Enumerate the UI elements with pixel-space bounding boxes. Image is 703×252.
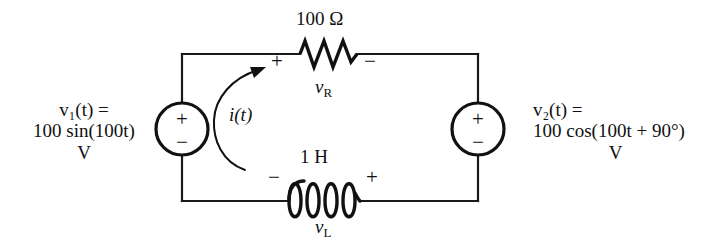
vl-subscript: L [323,225,331,240]
resistor-value-label: 100 Ω [296,8,343,29]
resistor-minus-sign: − [364,50,376,74]
resistor-voltage-label: vR [315,76,332,100]
source-right-minus-sign: − [472,131,484,155]
vr-subscript: R [323,85,332,100]
v1-line3: V [14,142,154,163]
source-left-minus-sign: − [176,131,188,155]
circuit-diagram: v₁(t) = 100 sin(100t) V v₂(t) = 100 cos(… [0,0,703,252]
v2-line1: v₂(t) = [533,99,698,120]
v2-line2: 100 cos(100t + 90°) [533,120,698,141]
inductor-voltage-label: vL [315,216,331,240]
voltage-source-left-label: v₁(t) = 100 sin(100t) V [14,99,154,163]
voltage-source-right-label: v₂(t) = 100 cos(100t + 90°) V [533,99,698,163]
inductor-symbol [289,181,360,217]
inductor-minus-sign: − [268,166,280,190]
v1-line2: 100 sin(100t) [14,120,154,141]
v1-line1: v₁(t) = [14,99,154,120]
source-right-plus-sign: + [472,108,484,132]
resistor-plus-sign: + [271,50,283,74]
source-left-plus-sign: + [176,108,188,132]
current-label: i(t) [229,104,252,125]
resistor-symbol [300,41,357,67]
v2-line3: V [533,142,698,163]
inductor-value-label: 1 H [300,146,328,167]
inductor-plus-sign: + [366,166,378,190]
